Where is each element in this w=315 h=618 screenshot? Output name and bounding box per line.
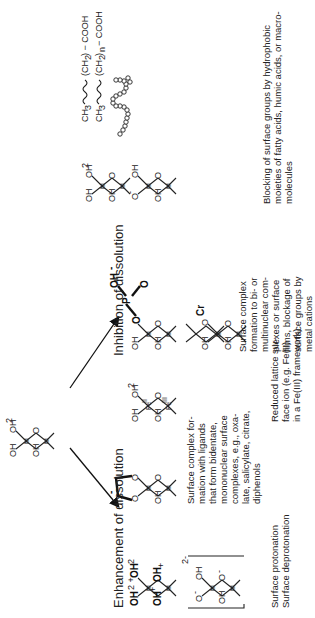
- svg-text:M: M: [209, 585, 216, 591]
- svg-text:3: 3: [83, 105, 93, 110]
- protonated-structure: M M OH+ OH+ OH2 + OH2: [126, 559, 176, 606]
- svg-text:2 +: 2 +: [126, 577, 136, 590]
- heading-inhibition: Inhibition of dissolution: [112, 224, 127, 356]
- svg-text:2: 2: [126, 559, 136, 564]
- svg-text:+: +: [148, 587, 158, 592]
- svg-text:II: II: [141, 399, 148, 403]
- svg-text:O: O: [217, 574, 227, 581]
- svg-text:OH: OH: [129, 563, 140, 578]
- svg-text:M: M: [99, 183, 106, 189]
- svg-text:O: O: [153, 172, 163, 179]
- svg-text:OH: OH: [107, 189, 117, 203]
- svg-text:M: M: [165, 331, 172, 337]
- svg-text:M: M: [229, 585, 236, 591]
- caption-protonation: Surface protonation Surface deprotonatio…: [270, 508, 292, 608]
- blocked-structure-b: M M OH O O- OH: [125, 165, 176, 203]
- svg-text:O: O: [194, 595, 204, 602]
- svg-text:M: M: [145, 485, 152, 491]
- svg-text:-: -: [214, 570, 224, 573]
- svg-text:OH: OH: [153, 189, 163, 203]
- svg-text:n: n: [97, 47, 107, 52]
- svg-text:2: 2: [80, 163, 90, 168]
- svg-text:O: O: [131, 316, 142, 324]
- svg-text:3: 3: [97, 105, 107, 110]
- svg-text:-: -: [190, 591, 200, 594]
- svg-text:M: M: [23, 438, 30, 444]
- svg-text:M: M: [119, 183, 126, 189]
- blocked-structure-a: M M OH O OH OH 2: [80, 163, 130, 202]
- svg-text:O: O: [200, 319, 210, 326]
- svg-text:OH: OH: [153, 337, 163, 351]
- svg-text:2: 2: [4, 418, 14, 423]
- heading-enhancement: Enhancement of dissolution: [112, 448, 127, 608]
- fatty-acid-chain-1: CH3 (CH2 ) − COOH: [80, 16, 93, 122]
- svg-text:) − COOH: ) − COOH: [80, 16, 90, 56]
- svg-text:OH: OH: [200, 337, 210, 351]
- svg-text:OH: OH: [130, 165, 140, 179]
- diagram-canvas: M M OH O OH OH 2 M M OH+ OH+ OH2 + OH2 M…: [0, 0, 315, 618]
- svg-text:M: M: [215, 331, 222, 337]
- svg-text:O: O: [153, 474, 163, 481]
- svg-text:(CH: (CH: [80, 60, 90, 76]
- caption-hydrophobic-blocking: Blocking of surface groups by hydrophobi…: [262, 4, 295, 204]
- svg-text:O: O: [107, 172, 117, 179]
- caption-bidentate: Surface complex for- mation with ligands…: [186, 394, 262, 504]
- svg-text:2: 2: [126, 383, 136, 388]
- svg-text:): ): [94, 53, 104, 56]
- svg-text:OH: OH: [223, 337, 233, 351]
- svg-text:OH: OH: [152, 591, 163, 606]
- svg-text:O: O: [223, 320, 233, 327]
- svg-text:2-: 2-: [180, 556, 190, 564]
- svg-text:O: O: [153, 392, 163, 399]
- svg-text:(CH: (CH: [94, 60, 104, 76]
- svg-text:OH: OH: [152, 567, 163, 582]
- svg-text:O: O: [153, 320, 163, 327]
- macromolecule-bead-chain: [111, 76, 132, 136]
- svg-text:OH: OH: [84, 189, 94, 203]
- svg-text:M: M: [165, 485, 172, 491]
- svg-text:M: M: [165, 585, 172, 591]
- svg-text:OH: OH: [8, 444, 18, 458]
- svg-text:M: M: [145, 183, 152, 189]
- svg-text:OH: OH: [153, 409, 163, 423]
- svg-text:OH: OH: [31, 444, 41, 458]
- svg-text:+: +: [156, 563, 166, 568]
- svg-text:O: O: [31, 427, 41, 434]
- svg-text:M: M: [165, 183, 172, 189]
- svg-text:OH: OH: [129, 591, 140, 606]
- svg-text:-: -: [125, 191, 135, 194]
- svg-text:OH: OH: [153, 491, 163, 505]
- svg-text:Cr: Cr: [195, 305, 206, 316]
- svg-text:OH: OH: [194, 567, 204, 581]
- central-structure: M M OH O OH OH 2: [4, 418, 54, 457]
- reduced-fe-structure: Fe Fe III II OH O OH OH 2: [126, 383, 176, 422]
- svg-text:O: O: [139, 280, 150, 288]
- svg-text:M: M: [145, 331, 152, 337]
- fatty-acid-chain-2: CH3 (CH2 )n − COOH: [94, 11, 107, 122]
- caption-multinuclear: Surface complex formation to bi- or mult…: [238, 252, 314, 352]
- svg-text:OH: OH: [130, 337, 140, 351]
- svg-text:OH: OH: [130, 409, 140, 423]
- svg-text:OH: OH: [217, 591, 227, 605]
- metal-label: M: [43, 438, 50, 444]
- svg-text:− COOH: − COOH: [94, 11, 104, 46]
- deprotonated-structure: M M OH O- O- OH 2-: [180, 556, 244, 608]
